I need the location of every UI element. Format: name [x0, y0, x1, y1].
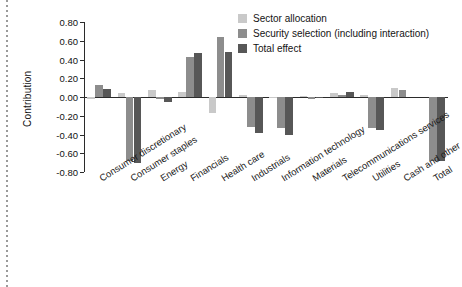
- bar: [95, 85, 102, 97]
- legend-label: Total effect: [253, 43, 301, 54]
- y-axis-title: Contribution: [22, 71, 33, 127]
- y-tick-label: -0.40: [46, 129, 78, 140]
- bar: [277, 97, 284, 128]
- bar: [285, 97, 292, 135]
- bar: [346, 92, 353, 97]
- y-tick-label: 0.00: [46, 92, 78, 103]
- bar: [186, 57, 193, 97]
- y-tick-label: -0.60: [46, 148, 78, 159]
- bar-group: [87, 22, 110, 172]
- bar: [368, 97, 375, 128]
- y-tick-label: -0.80: [46, 167, 78, 178]
- bar: [209, 97, 216, 113]
- bar: [330, 93, 337, 97]
- bar: [164, 97, 171, 102]
- legend-label: Security selection (including interactio…: [253, 28, 429, 39]
- legend-label: Sector allocation: [253, 13, 327, 24]
- bar: [360, 95, 367, 97]
- bar: [399, 90, 406, 97]
- y-tick-label: -0.20: [46, 110, 78, 121]
- bar: [239, 95, 246, 97]
- bar: [247, 97, 254, 127]
- bar: [225, 52, 232, 97]
- page-edge-rule: [6, 0, 8, 287]
- chart-legend: Sector allocationSecurity selection (inc…: [238, 12, 429, 57]
- legend-item: Sector allocation: [238, 12, 429, 25]
- bar: [194, 53, 201, 97]
- bar: [391, 88, 398, 97]
- bar: [300, 96, 307, 97]
- y-tick-mark: [80, 172, 84, 173]
- bar: [269, 97, 276, 98]
- bar: [217, 37, 224, 97]
- legend-item: Total effect: [238, 42, 429, 55]
- y-tick-label: 0.40: [46, 54, 78, 65]
- y-tick-label: 0.80: [46, 17, 78, 28]
- bar: [103, 89, 110, 97]
- bar: [178, 92, 185, 97]
- bar: [255, 97, 262, 133]
- bar-group: [209, 22, 232, 172]
- bar: [316, 97, 323, 98]
- bar: [338, 95, 345, 97]
- bar: [308, 97, 315, 99]
- bar: [376, 97, 383, 130]
- y-tick-label: 0.20: [46, 73, 78, 84]
- y-tick-label: 0.60: [46, 35, 78, 46]
- bar: [118, 93, 125, 97]
- legend-swatch-icon: [238, 29, 247, 38]
- bar: [87, 97, 94, 99]
- bar: [148, 90, 155, 97]
- bar: [156, 97, 163, 99]
- legend-item: Security selection (including interactio…: [238, 27, 429, 40]
- legend-swatch-icon: [238, 14, 247, 23]
- legend-swatch-icon: [238, 44, 247, 53]
